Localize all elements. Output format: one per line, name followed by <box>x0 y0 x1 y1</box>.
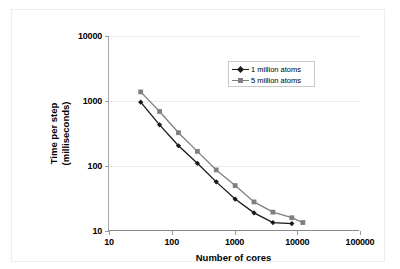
y-tick-label: 1000 <box>83 96 102 106</box>
data-point-marker <box>289 215 294 220</box>
data-point-marker <box>195 149 200 154</box>
data-point-marker <box>289 221 294 226</box>
y-axis-title: Time per step (milliseconds) <box>46 36 74 231</box>
data-point-marker <box>138 90 143 95</box>
figure-frame: Time per step (milliseconds) Number of c… <box>11 9 385 262</box>
data-point-marker <box>271 210 276 215</box>
series-line-0 <box>141 102 292 223</box>
y-tick-label: 10000 <box>78 31 102 41</box>
y-axis-title-line1: Time per step <box>48 102 60 166</box>
legend-entry-0: 1 million atoms <box>232 64 311 75</box>
legend-swatch-diamond-icon <box>232 65 249 74</box>
y-tick-label: 100 <box>88 161 102 171</box>
data-point-marker <box>300 220 305 225</box>
y-tick-label: 10 <box>92 226 102 236</box>
data-point-marker <box>157 109 162 114</box>
x-tick-mark <box>235 231 236 235</box>
figure-canvas: Time per step (milliseconds) Number of c… <box>0 0 400 269</box>
legend-swatch-square-icon <box>232 76 249 85</box>
x-tick-label: 10 <box>104 237 114 247</box>
x-tick-mark <box>297 231 298 235</box>
y-axis-title-line2: (milliseconds) <box>60 102 72 166</box>
x-tick-label: 1000 <box>225 237 244 247</box>
x-axis-title: Number of cores <box>108 252 359 263</box>
legend-label-1: 5 million atoms <box>251 76 301 85</box>
x-tick-label: 10000 <box>285 237 309 247</box>
legend-entry-1: 5 million atoms <box>232 75 311 86</box>
x-tick-mark <box>172 231 173 235</box>
x-tick-label: 100000 <box>346 237 375 247</box>
legend-marker-1 <box>238 78 243 83</box>
x-tick-label: 100 <box>165 237 179 247</box>
data-point-marker <box>270 220 275 225</box>
series-line-1 <box>141 92 303 223</box>
legend-label-0: 1 million atoms <box>251 65 301 74</box>
x-tick-mark <box>360 231 361 235</box>
data-point-marker <box>252 200 257 205</box>
x-tick-mark <box>109 231 110 235</box>
legend-box: 1 million atoms 5 million atoms <box>228 61 315 87</box>
data-point-marker <box>214 168 219 173</box>
legend-marker-0 <box>237 66 244 73</box>
data-point-marker <box>176 130 181 135</box>
data-point-marker <box>233 183 238 188</box>
